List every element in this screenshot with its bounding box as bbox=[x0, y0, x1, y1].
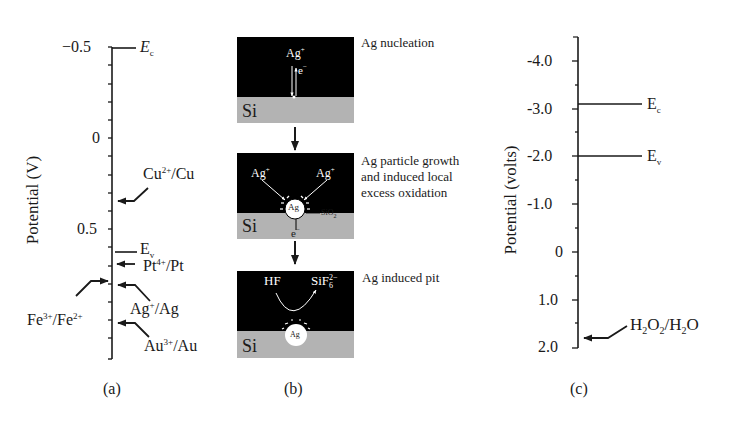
substrate-si-3: Si bbox=[242, 336, 257, 357]
panel-c bbox=[572, 37, 642, 348]
electron-2: e− bbox=[291, 226, 300, 239]
ion-ag-right: Ag+ bbox=[316, 166, 335, 181]
caption-a: (a) bbox=[103, 380, 121, 398]
particle-ag-3: Ag bbox=[290, 330, 300, 339]
level-pt: Pt4+/Pt bbox=[143, 257, 184, 276]
tick-label-c-neg2: -2.0 bbox=[527, 147, 552, 165]
oxide-label: SiO2 bbox=[321, 208, 336, 219]
level-ev-c: Ev bbox=[647, 147, 661, 168]
ion-ag-1: Ag+ bbox=[286, 46, 305, 61]
product-sif6: SiF2−6 bbox=[311, 274, 338, 290]
axis-label-c: Potential (volts) bbox=[501, 145, 521, 254]
step-title-2: Ag particle growth and induced local exc… bbox=[361, 153, 459, 201]
caption-b: (b) bbox=[284, 380, 303, 398]
tick-label-c-1: 1.0 bbox=[538, 291, 558, 309]
caption-c: (c) bbox=[570, 380, 588, 398]
tick-label-c-neg1: -1.0 bbox=[527, 195, 552, 213]
reactant-hf: HF bbox=[264, 274, 281, 289]
axis-ticks-c bbox=[572, 61, 578, 348]
tick-label-a-0.5: 0.5 bbox=[77, 220, 97, 238]
step-title-3: Ag induced pit bbox=[362, 271, 439, 286]
level-ag: Ag+/Ag bbox=[130, 300, 179, 319]
figure-canvas bbox=[0, 0, 733, 423]
axis-label-a: Potential (V) bbox=[23, 156, 43, 244]
level-fe: Fe3+/Fe2+ bbox=[27, 311, 83, 330]
substrate-si-1: Si bbox=[242, 101, 257, 122]
tick-label-c-2: 2.0 bbox=[538, 338, 558, 356]
tick-label-c-neg4: -4.0 bbox=[527, 52, 552, 70]
electron-1: e− bbox=[298, 63, 307, 76]
tick-label-a-neg0.5: −0.5 bbox=[62, 38, 91, 56]
substrate-si-2: Si bbox=[242, 216, 257, 237]
level-ec-c: Ec bbox=[647, 95, 661, 116]
tick-label-a-0: 0 bbox=[92, 129, 100, 147]
particle-ag-2: Ag bbox=[288, 202, 299, 212]
tick-label-c-0: 0 bbox=[555, 243, 563, 261]
level-h2o2: H2O2/H2O bbox=[630, 315, 699, 337]
ion-ag-left: Ag+ bbox=[251, 166, 270, 181]
step-title-1: Ag nucleation bbox=[361, 36, 434, 51]
level-au: Au3+/Au bbox=[144, 337, 197, 356]
panel-b bbox=[237, 37, 354, 358]
level-cu: Cu2+/Cu bbox=[143, 165, 194, 184]
tick-label-c-neg3: -3.0 bbox=[527, 100, 552, 118]
level-ec-a: Ec bbox=[140, 38, 154, 59]
